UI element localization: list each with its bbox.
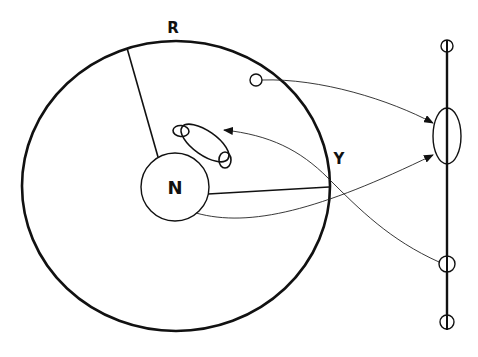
axis-node-bottom [440, 315, 454, 329]
axis-node-mid [439, 256, 455, 272]
label-n: N [167, 177, 182, 198]
arrow-axis-node-to-loops [224, 130, 439, 262]
label-y: Y [333, 150, 346, 168]
diagram-canvas: N R Y [0, 0, 478, 357]
arrow-nucleus-to-oval [196, 155, 433, 218]
axis-node-top [441, 40, 453, 52]
small-node [250, 74, 262, 86]
label-r: R [167, 19, 179, 37]
radius-line-to-r [127, 48, 158, 157]
radius-line-to-y [208, 187, 329, 194]
